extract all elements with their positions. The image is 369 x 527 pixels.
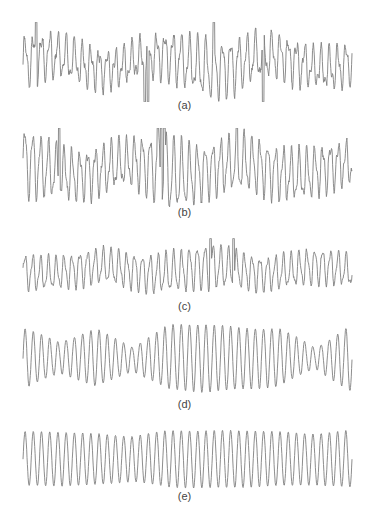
waveform-trace-e [0, 427, 369, 491]
waveform-panel-e [0, 427, 369, 491]
waveform-trace-a [0, 22, 369, 102]
panel-label-d: (d) [0, 398, 369, 410]
panel-label-c: (c) [0, 300, 369, 312]
waveform-trace-d [0, 322, 369, 394]
panel-label-a: (a) [0, 99, 369, 111]
waveform-trace-b [0, 128, 369, 210]
waveform-panel-a [0, 22, 369, 102]
waveform-panel-d [0, 322, 369, 394]
waveform-trace-c [0, 238, 369, 302]
panel-label-e: (e) [0, 490, 369, 502]
panel-label-b: (b) [0, 206, 369, 218]
waveform-panel-b [0, 128, 369, 210]
waveform-panel-c [0, 238, 369, 302]
